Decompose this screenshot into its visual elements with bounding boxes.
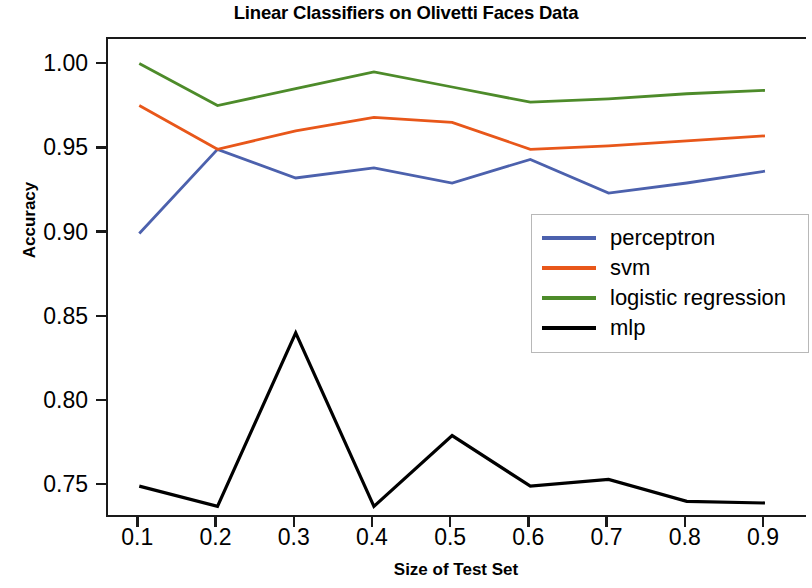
y-tick-mark — [96, 483, 106, 486]
legend-label: mlp — [610, 317, 645, 339]
legend-label: svm — [610, 257, 650, 279]
chart-title: Linear Classifiers on Olivetti Faces Dat… — [0, 2, 812, 24]
y-tick-label: 0.95 — [14, 134, 88, 161]
y-tick-label: 0.85 — [14, 302, 88, 329]
legend-label: perceptron — [610, 227, 715, 249]
y-tick-label: 0.80 — [14, 386, 88, 413]
y-tick-label: 0.75 — [14, 471, 88, 498]
legend-item-perceptron[interactable]: perceptron — [542, 223, 798, 253]
y-tick-mark — [96, 315, 106, 318]
legend-swatch-icon — [542, 296, 596, 299]
legend-label: logistic regression — [610, 287, 786, 309]
x-axis-label: Size of Test Set — [106, 560, 806, 580]
y-tick-label: 0.90 — [14, 218, 88, 245]
x-tick-label: 0.8 — [650, 524, 720, 551]
legend-item-logistic-regression[interactable]: logistic regression — [542, 283, 798, 313]
x-tick-label: 0.4 — [337, 524, 407, 551]
series-line-mlp — [139, 333, 765, 506]
legend-item-svm[interactable]: svm — [542, 253, 798, 283]
legend-swatch-icon — [542, 266, 596, 269]
legend-swatch-icon — [542, 326, 596, 329]
legend: perceptronsvmlogistic regressionmlp — [531, 214, 809, 353]
series-line-svm — [139, 106, 765, 150]
x-tick-label: 0.1 — [102, 524, 172, 551]
legend-swatch-icon — [542, 236, 596, 239]
y-tick-mark — [96, 230, 106, 233]
y-tick-mark — [96, 399, 106, 402]
x-tick-label: 0.9 — [728, 524, 798, 551]
x-tick-label: 0.3 — [259, 524, 329, 551]
x-tick-label: 0.2 — [180, 524, 250, 551]
series-line-logistic-regression — [139, 63, 765, 105]
x-tick-label: 0.5 — [415, 524, 485, 551]
legend-item-mlp[interactable]: mlp — [542, 313, 798, 343]
y-tick-mark — [96, 62, 106, 65]
y-tick-label: 1.00 — [14, 50, 88, 77]
x-tick-label: 0.7 — [572, 524, 642, 551]
chart-figure: Linear Classifiers on Olivetti Faces Dat… — [0, 0, 812, 588]
y-tick-mark — [96, 146, 106, 149]
x-tick-label: 0.6 — [493, 524, 563, 551]
